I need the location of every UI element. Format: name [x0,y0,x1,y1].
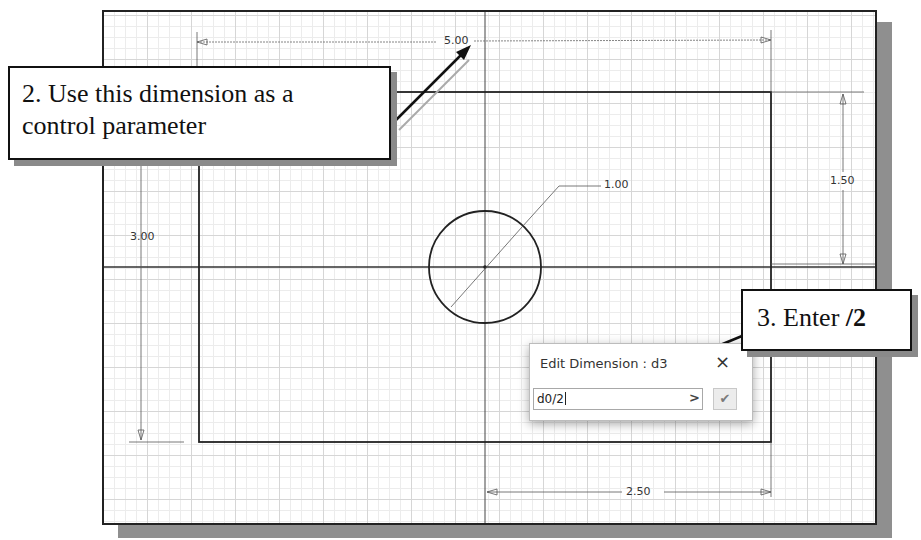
canvas-shadow-right [876,22,892,532]
callout2-arrow [394,50,466,122]
canvas-shadow-bottom [118,524,892,538]
callout-step-3-bold: /2 [846,303,866,332]
dialog-title: Edit Dimension : d3 [540,356,668,371]
dimension-value-input[interactable]: d0/2 > [533,388,703,410]
checkmark-icon: ✔ [720,391,731,406]
text-caret [565,392,566,405]
dimension-height-overall[interactable]: 3.00 [130,230,155,243]
dimension-circle-horizontal-offset[interactable]: 2.50 [626,485,651,498]
close-icon[interactable]: × [715,351,730,372]
chevron-right-icon[interactable]: > [689,390,700,405]
callout-step-2-line2: control parameter [22,110,389,142]
edit-dimension-dialog: Edit Dimension : d3 × d0/2 > ✔ [529,343,753,421]
dimension-width-overall[interactable]: 5.00 [444,34,469,47]
accept-button[interactable]: ✔ [713,388,737,410]
dimension-circle-diameter[interactable]: 1.00 [604,178,629,191]
dimension-circle-vertical-offset[interactable]: 1.50 [830,174,855,187]
callout-step-2: 2. Use this dimension as a control param… [8,66,391,160]
dimension-value-text: d0/2 [537,392,564,406]
callout-step-2-line1: 2. Use this dimension as a [22,78,389,110]
callout-step-3-prefix: 3. Enter [757,303,846,332]
callout-step-3: 3. Enter /2 [741,289,912,351]
